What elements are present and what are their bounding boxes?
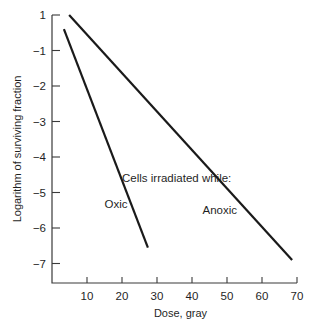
y-tick-label: −4 bbox=[33, 151, 47, 163]
y-tick-label: −5 bbox=[33, 187, 46, 199]
y-tick-label: −2 bbox=[33, 80, 46, 92]
annotations: Cells irradiated while:OxicAnoxic bbox=[105, 172, 238, 216]
y-tick-label: −6 bbox=[33, 222, 46, 234]
annotation-anoxic: Anoxic bbox=[203, 204, 238, 216]
axis-frame bbox=[52, 15, 297, 283]
survival-curve-chart: 10203040506070 1−1−2−3−4−5−6−7 Dose, gra… bbox=[0, 0, 313, 325]
y-tick-label: −3 bbox=[33, 116, 46, 128]
y-tick-label: −7 bbox=[33, 258, 46, 270]
series-line-anoxic bbox=[69, 15, 292, 260]
annotation-oxic: Oxic bbox=[105, 198, 128, 210]
x-tick-label: 50 bbox=[221, 290, 234, 302]
y-tick-label: −1 bbox=[33, 45, 46, 57]
series bbox=[64, 15, 292, 260]
series-line-oxic bbox=[64, 29, 148, 247]
axes bbox=[52, 15, 297, 283]
x-ticks: 10203040506070 bbox=[81, 277, 304, 302]
y-ticks: 1−1−2−3−4−5−6−7 bbox=[33, 9, 60, 270]
annotation-header: Cells irradiated while: bbox=[122, 172, 231, 184]
y-tick-label: 1 bbox=[40, 9, 46, 21]
x-tick-label: 10 bbox=[81, 290, 94, 302]
x-tick-label: 70 bbox=[291, 290, 304, 302]
x-tick-label: 40 bbox=[186, 290, 199, 302]
x-tick-label: 60 bbox=[256, 290, 269, 302]
x-tick-label: 20 bbox=[116, 290, 129, 302]
x-tick-label: 30 bbox=[151, 290, 164, 302]
y-axis-label: Logarithm of surviving fraction bbox=[11, 76, 23, 223]
x-axis-label: Dose, gray bbox=[154, 307, 208, 319]
